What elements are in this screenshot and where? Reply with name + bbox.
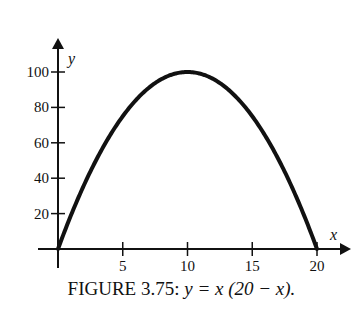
x-tick-label: 10 [180,258,195,274]
y-tick-label: 20 [34,206,49,222]
y-axis-arrow-icon [52,38,64,49]
chart-plot: 5101520 20406080100 x y [0,0,363,319]
y-axis-label: y [66,50,76,68]
x-tick-label: 15 [245,258,260,274]
x-ticks: 5101520 [119,242,325,274]
x-axis-label: x [329,226,337,243]
caption-label: FIGURE 3.75: [68,278,180,299]
caption-equation: y = x (20 − x). [184,278,295,299]
x-tick-label: 20 [310,258,325,274]
x-tick-label: 5 [119,258,127,274]
y-tick-label: 60 [34,135,49,151]
y-tick-label: 80 [34,99,49,115]
parabola-curve [58,72,317,249]
x-axis-arrow-icon [340,243,351,255]
y-ticks: 20406080100 [27,64,66,222]
y-tick-label: 100 [27,64,50,80]
y-tick-label: 40 [34,170,49,186]
figure-caption: FIGURE 3.75: y = x (20 − x). [0,278,363,300]
